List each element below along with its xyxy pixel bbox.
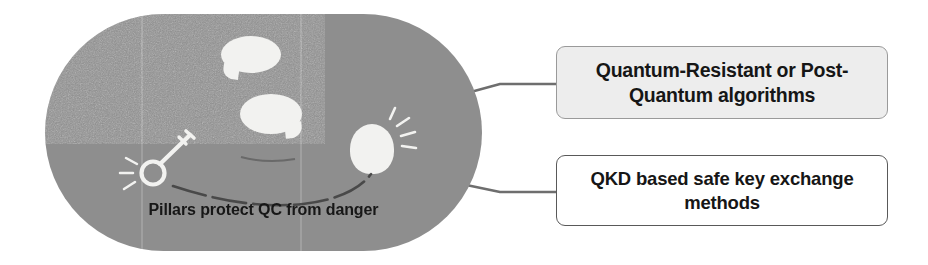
callout-label: QKD based safe key exchange methods: [557, 167, 887, 214]
callout-label: Quantum-Resistant or Post-Quantum algori…: [557, 58, 887, 107]
callout-box-qkd[interactable]: QKD based safe key exchange methods: [556, 155, 888, 226]
lightbulb-shine-icon: [390, 108, 416, 148]
callout-box-quantum-resistant[interactable]: Quantum-Resistant or Post-Quantum algori…: [556, 46, 888, 119]
small-arc-icon: [241, 157, 295, 161]
pill-shape-container: Pillars protect QC from danger: [45, 14, 482, 251]
diagram-canvas: Pillars protect QC from danger Quantum-R…: [0, 0, 928, 265]
key-shine-icon: [120, 158, 137, 189]
key-icon: [142, 131, 195, 185]
pill-shape: Pillars protect QC from danger: [45, 14, 482, 251]
page-title: Pillars protect QC from danger: [45, 201, 482, 219]
